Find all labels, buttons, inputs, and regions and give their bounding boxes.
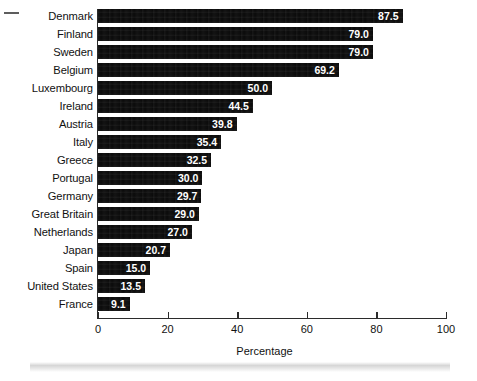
bar-row: Greece32.5 [0,153,477,171]
bar-value-label: 79.0 [348,45,368,59]
bar-value-label: 35.4 [197,135,217,149]
category-label: Italy [0,135,93,150]
bar-track: 9.1 [98,297,477,311]
category-label: Spain [0,261,93,276]
category-label: Japan [0,243,93,258]
x-tick-label: 100 [437,323,455,335]
plot-area: Denmark87.5Finland79.0Sweden79.0Belgium6… [0,0,477,381]
bar-value-label: 29.0 [174,207,194,221]
bar: 20.7 [98,243,170,257]
bar-value-label: 50.0 [248,81,268,95]
bar: 39.8 [98,117,237,131]
bar-row: Belgium69.2 [0,63,477,81]
category-label: United States [0,279,93,294]
bar-row: Italy35.4 [0,135,477,153]
bar-track: 29.7 [98,189,477,203]
bar: 50.0 [98,81,272,95]
x-tick [376,312,377,319]
bar-value-label: 79.0 [348,27,368,41]
bar-track: 79.0 [98,45,477,59]
category-label: Austria [0,117,93,132]
x-axis-line [98,318,446,319]
x-tick-label: 40 [231,323,243,335]
bar-track: 27.0 [98,225,477,239]
bar-track: 30.0 [98,171,477,185]
bar-value-label: 20.7 [146,243,166,257]
bar: 87.5 [98,9,403,23]
bar-track: 50.0 [98,81,477,95]
bar-track: 15.0 [98,261,477,275]
bar: 27.0 [98,225,192,239]
bar-chart: Denmark87.5Finland79.0Sweden79.0Belgium6… [0,0,477,381]
bar-track: 69.2 [98,63,477,77]
bar-value-label: 29.7 [177,189,197,203]
bar: 30.0 [98,171,202,185]
category-label: Luxembourg [0,81,93,96]
category-label: Belgium [0,63,93,78]
x-tick [446,312,447,319]
bar: 35.4 [98,135,221,149]
x-tick [168,312,169,319]
bar-row: Luxembourg50.0 [0,81,477,99]
bar-track: 13.5 [98,279,477,293]
bar-value-label: 30.0 [178,171,198,185]
bar-value-label: 15.0 [126,261,146,275]
bar-row: Ireland44.5 [0,99,477,117]
bar-row: United States13.5 [0,279,477,297]
category-label: Finland [0,27,93,42]
bar: 79.0 [98,45,373,59]
bar-row: Germany29.7 [0,189,477,207]
bar-value-label: 39.8 [212,117,232,131]
bar-row: Finland79.0 [0,27,477,45]
bar-row: Netherlands27.0 [0,225,477,243]
category-label: Greece [0,153,93,168]
bar-value-label: 27.0 [168,225,188,239]
x-tick-label: 20 [161,323,173,335]
bar-value-label: 9.1 [111,297,126,311]
scan-shadow-band [30,362,450,372]
category-label: France [0,297,93,312]
bar: 15.0 [98,261,150,275]
category-label: Denmark [0,9,93,24]
bar-row: Portugal30.0 [0,171,477,189]
bar-track: 39.8 [98,117,477,131]
bar-track: 44.5 [98,99,477,113]
category-label: Portugal [0,171,93,186]
bar-value-label: 44.5 [228,99,248,113]
bar-rows: Denmark87.5Finland79.0Sweden79.0Belgium6… [0,9,477,315]
category-label: Great Britain [0,207,93,222]
x-tick [237,312,238,319]
bar: 32.5 [98,153,211,167]
bar-row: Denmark87.5 [0,9,477,27]
x-tick [98,312,99,319]
bar-value-label: 69.2 [314,63,334,77]
bar: 29.7 [98,189,201,203]
x-axis-title: Percentage [0,345,477,357]
bar: 44.5 [98,99,253,113]
bar-track: 20.7 [98,243,477,257]
bar-row: Great Britain29.0 [0,207,477,225]
bar-row: Austria39.8 [0,117,477,135]
bar-track: 87.5 [98,9,477,23]
bar-track: 35.4 [98,135,477,149]
bar-row: Sweden79.0 [0,45,477,63]
category-label: Netherlands [0,225,93,240]
bar-track: 32.5 [98,153,477,167]
bar: 69.2 [98,63,339,77]
bar: 79.0 [98,27,373,41]
x-axis-title-label: Percentage [236,345,292,357]
category-label: Germany [0,189,93,204]
bar: 29.0 [98,207,199,221]
bar-value-label: 87.5 [378,9,398,23]
bar: 9.1 [98,297,130,311]
x-tick-label: 60 [301,323,313,335]
category-label: Sweden [0,45,93,60]
bar: 13.5 [98,279,145,293]
bar-row: Japan20.7 [0,243,477,261]
x-tick-label: 80 [370,323,382,335]
bar-track: 79.0 [98,27,477,41]
bar-track: 29.0 [98,207,477,221]
bar-value-label: 13.5 [121,279,141,293]
bar-value-label: 32.5 [187,153,207,167]
category-label: Ireland [0,99,93,114]
